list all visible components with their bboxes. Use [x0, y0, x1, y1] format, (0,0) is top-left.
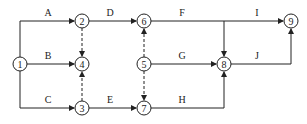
node-5: 5 [137, 57, 151, 71]
activity-label-E: E [107, 94, 113, 105]
dummy-edges [82, 28, 144, 101]
edge-F [151, 21, 224, 56]
node-label: 4 [80, 59, 85, 70]
node-2: 2 [75, 14, 89, 28]
node-8: 8 [217, 57, 231, 71]
activity-label-C: C [45, 94, 52, 105]
node-label: 3 [80, 103, 85, 114]
activity-label-B: B [45, 50, 52, 61]
node-label: 5 [142, 59, 147, 70]
node-label: 2 [80, 16, 85, 27]
network-diagram: A B C D E F G H I J 1 2 3 4 5 [0, 0, 307, 124]
activity-label-A: A [44, 7, 52, 18]
activity-label-I: I [255, 7, 258, 18]
node-label: 6 [142, 16, 147, 27]
edge-J [231, 29, 291, 64]
activity-label-J: J [255, 50, 259, 61]
node-3: 3 [75, 101, 89, 115]
node-9: 9 [284, 14, 298, 28]
node-label: 8 [222, 59, 227, 70]
node-7: 7 [137, 101, 151, 115]
activity-label-F: F [179, 7, 185, 18]
activity-label-D: D [106, 7, 113, 18]
node-label: 1 [18, 59, 23, 70]
node-4: 4 [75, 57, 89, 71]
activity-label-H: H [178, 94, 185, 105]
activity-label-G: G [178, 50, 185, 61]
node-1: 1 [13, 57, 27, 71]
node-6: 6 [137, 14, 151, 28]
edge-H [151, 72, 224, 108]
node-label: 7 [142, 103, 147, 114]
activity-edges [20, 21, 291, 108]
node-label: 9 [289, 16, 294, 27]
